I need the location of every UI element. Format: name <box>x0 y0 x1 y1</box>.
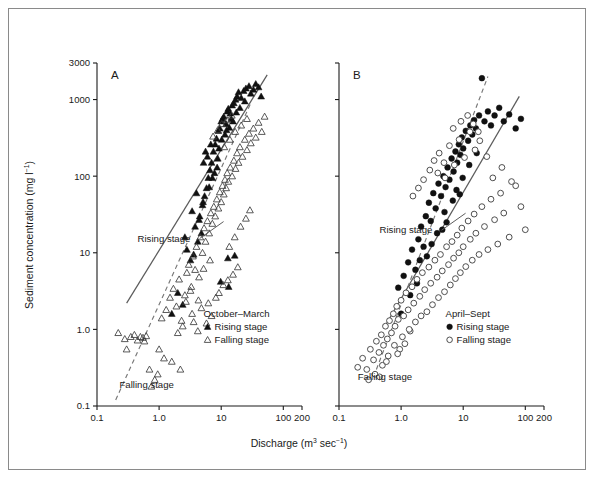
data-point <box>192 266 199 272</box>
data-point <box>458 118 464 124</box>
data-point <box>411 300 417 306</box>
data-point <box>413 319 419 325</box>
data-point <box>167 294 174 300</box>
trend-line-A-dashed <box>116 103 251 400</box>
data-point <box>384 359 390 365</box>
panel-B: 0.11.010100200BRising stageFalling stage… <box>332 63 552 423</box>
data-point <box>522 227 528 233</box>
data-point <box>451 255 457 261</box>
data-point <box>258 93 265 99</box>
data-point <box>484 154 490 160</box>
data-point <box>392 342 398 348</box>
data-point <box>200 265 207 271</box>
data-point <box>241 136 248 142</box>
data-point <box>384 336 390 342</box>
data-point <box>235 159 242 165</box>
y-tick-label-2: 10 <box>79 247 90 258</box>
data-point <box>258 128 265 134</box>
data-point <box>398 297 404 303</box>
data-point <box>376 350 382 356</box>
data-point <box>252 134 259 140</box>
series-A-filled-triangle <box>168 81 264 317</box>
data-point <box>227 164 234 170</box>
data-point <box>244 115 251 121</box>
data-point <box>446 262 452 268</box>
data-point <box>432 257 438 263</box>
data-point <box>176 276 183 282</box>
data-point <box>416 185 422 191</box>
data-point <box>224 255 231 261</box>
data-point <box>383 323 389 329</box>
data-point <box>158 315 165 321</box>
data-point <box>414 276 420 282</box>
data-point <box>444 219 450 225</box>
data-point <box>395 285 401 291</box>
data-point <box>447 143 453 149</box>
data-point <box>190 319 197 325</box>
data-point <box>255 119 262 125</box>
data-point <box>183 246 190 252</box>
data-point <box>416 236 422 242</box>
data-point <box>498 190 504 196</box>
data-point <box>192 223 199 229</box>
data-point <box>387 318 393 324</box>
data-point <box>488 196 494 202</box>
series-A-open-triangle <box>115 112 268 389</box>
data-point <box>163 306 170 312</box>
data-point <box>427 167 433 173</box>
data-point <box>154 371 161 377</box>
data-point <box>513 126 519 132</box>
x-tick-label-A-1: 1.0 <box>152 412 165 423</box>
data-point <box>465 218 471 224</box>
data-point <box>202 148 209 154</box>
panel-A: 0.11.010100100030000.11.010100200ARising… <box>69 57 310 423</box>
data-point <box>355 364 361 370</box>
data-point <box>471 211 477 217</box>
data-point <box>178 317 185 323</box>
annotation-falling-stage-B: Falling stage <box>358 371 412 382</box>
data-point <box>156 346 163 352</box>
data-point <box>236 144 243 150</box>
y-tick-label-0: 0.1 <box>77 400 90 411</box>
data-point <box>234 264 241 270</box>
data-point <box>454 232 460 238</box>
data-point <box>213 196 220 202</box>
data-point <box>194 238 201 244</box>
data-point <box>450 198 456 204</box>
data-point <box>426 200 432 206</box>
data-point <box>469 257 475 263</box>
data-point <box>207 257 214 263</box>
data-point <box>436 295 442 301</box>
data-point <box>465 138 471 144</box>
data-point <box>434 230 440 236</box>
data-point <box>419 270 425 276</box>
data-point <box>196 274 203 280</box>
x-tick-label-B-3: 100 <box>517 412 533 423</box>
data-point <box>495 241 501 247</box>
annotation-rising-stage-A: Rising stage <box>138 233 191 244</box>
data-point <box>501 210 507 216</box>
y-tick-label-4: 1000 <box>69 94 90 105</box>
data-point <box>231 234 238 240</box>
data-point <box>442 289 448 295</box>
data-point <box>367 346 373 352</box>
data-point <box>183 269 190 275</box>
data-point <box>199 249 206 255</box>
data-point <box>438 193 444 199</box>
data-point <box>430 190 436 196</box>
data-point <box>115 329 122 335</box>
data-point <box>492 217 498 223</box>
data-point <box>401 273 407 279</box>
data-point <box>435 170 441 176</box>
data-point <box>405 307 411 313</box>
data-point <box>213 135 220 141</box>
data-point <box>381 342 387 348</box>
data-point <box>442 175 448 181</box>
data-point <box>421 244 427 250</box>
data-point <box>390 311 396 317</box>
x-tick-label-B-4: 200 <box>536 412 552 423</box>
data-point <box>195 297 202 303</box>
data-point <box>476 252 482 258</box>
data-point <box>170 285 177 291</box>
data-point <box>451 162 457 168</box>
